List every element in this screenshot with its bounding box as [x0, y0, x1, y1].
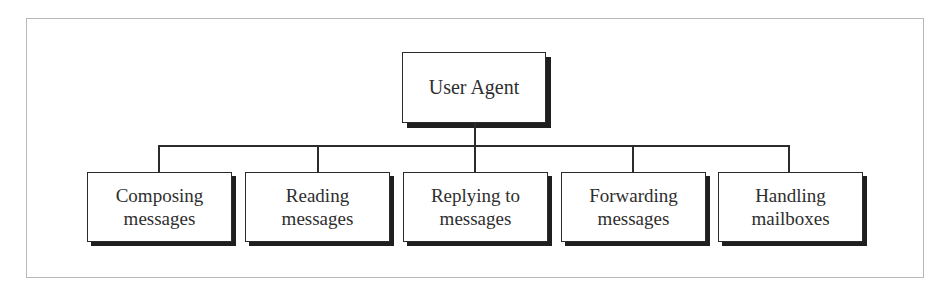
child-node-forwarding-messages: Forwarding messages — [561, 172, 706, 242]
child-node-label-line2: messages — [440, 207, 512, 230]
child-node-label-line1: Reading — [286, 184, 349, 207]
child-connector-1 — [158, 145, 160, 173]
child-node-replying-to-messages: Replying to messages — [403, 172, 548, 242]
child-node-label-line1: Replying to — [431, 184, 520, 207]
child-connector-3 — [474, 145, 476, 173]
child-node-label-line2: messages — [598, 207, 670, 230]
root-connector — [474, 123, 476, 146]
child-node-label-line2: messages — [124, 207, 196, 230]
child-connector-2 — [317, 145, 319, 173]
child-node-reading-messages: Reading messages — [245, 172, 390, 242]
root-node-label: User Agent — [429, 76, 520, 99]
child-connector-4 — [632, 145, 634, 173]
child-node-label-line1: Forwarding — [589, 184, 678, 207]
child-connector-5 — [788, 145, 790, 173]
child-node-label-line1: Composing — [116, 184, 204, 207]
child-node-handling-mailboxes: Handling mailboxes — [718, 172, 863, 242]
child-node-label-line2: mailboxes — [751, 207, 829, 230]
child-node-label-line1: Handling — [755, 184, 826, 207]
root-node-user-agent: User Agent — [402, 52, 546, 123]
child-node-label-line2: messages — [282, 207, 354, 230]
child-node-composing-messages: Composing messages — [87, 172, 232, 242]
